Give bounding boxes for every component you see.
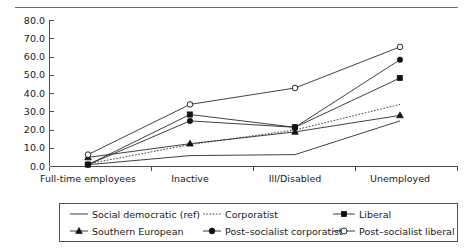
legend-item-liberal[interactable]: Liberal [333,209,391,220]
y-tick-marks [50,21,54,167]
legend-item-social-democratic[interactable]: Social democratic (ref) [70,209,200,220]
series-markers-post-socialist-liberal [85,44,403,157]
legend-label: Social democratic (ref) [92,209,200,220]
y-tick-label: 0.0 [30,161,45,172]
y-tick-label: 40.0 [24,88,45,99]
series-line-social-democratic [88,121,400,165]
legend-label: Post–socialist corporatist [225,226,343,237]
series-line-post-socialist-liberal [88,47,400,155]
series-line-post-socialist-corporatist [88,60,400,165]
x-tick-label-ill-disabled: Ill/Disabled [269,173,322,184]
legend-item-corporatist[interactable]: Corporatist [203,209,278,220]
series-markers-southern-european [85,112,404,160]
y-tick-label: 10.0 [24,142,45,153]
x-tick-label-inactive: Inactive [171,173,209,184]
series-markers-post-socialist-corporatist [85,57,402,167]
x-tick-marks [50,167,458,172]
series-line-southern-european [88,115,400,157]
y-tick-label: 70.0 [24,33,45,44]
legend-label: Liberal [359,209,391,220]
legend-item-post-socialist-liberal[interactable]: Post–socialist liberal [333,226,455,237]
line-chart: 80.0 70.0 60.0 50.0 40.0 30.0 20.0 10.0 … [0,0,469,249]
y-tick-label: 50.0 [24,69,45,80]
y-tick-label: 60.0 [24,51,45,62]
y-tick-label: 80.0 [24,15,45,26]
x-tick-label-full-time-employees: Full-time employees [40,173,136,184]
legend-item-southern-european[interactable]: Southern European [70,226,183,237]
y-tick-label: 30.0 [24,106,45,117]
series-line-liberal [88,78,400,165]
x-tick-label-unemployed: Unemployed [370,173,430,184]
legend-item-post-socialist-corporatist[interactable]: Post–socialist corporatist [203,226,343,237]
chart-figure: 80.0 70.0 60.0 50.0 40.0 30.0 20.0 10.0 … [0,0,469,249]
y-tick-label: 20.0 [24,124,45,135]
legend-label: Post–socialist liberal [359,226,455,237]
legend-label: Corporatist [225,209,278,220]
legend-label: Southern European [92,226,183,237]
